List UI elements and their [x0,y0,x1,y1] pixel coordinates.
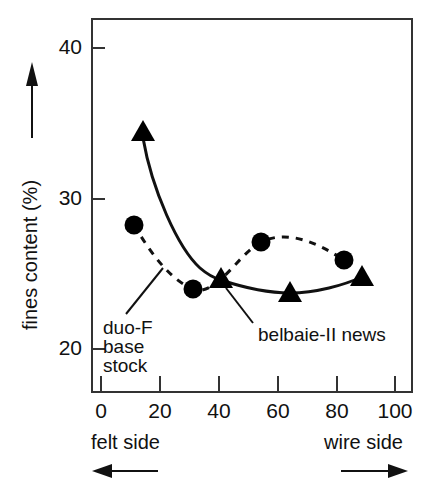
data-point-marker [125,216,144,235]
data-point-marker [131,120,155,141]
annotation-duo-f-line-2: base [103,337,144,356]
x-tick-label-100: 100 [371,400,419,421]
annotation-duo-f-line-3: stock [103,356,147,375]
y-tick-label-30: 30 [38,187,82,208]
y-tick-label-20: 20 [38,337,82,358]
data-point-marker [335,251,354,270]
x-tick-label-60: 60 [256,400,300,421]
wire-side-label: wire side [324,432,403,452]
y-axis-arrow-icon [26,62,38,138]
chart-figure: fines content (%) 40 30 20 0 20 40 60 80… [0,0,440,496]
x-tick-label-20: 20 [138,400,182,421]
y-tick-label-40: 40 [38,36,82,57]
data-point-marker [252,233,271,252]
data-point-marker [350,265,374,286]
annotation-leader-duo-f [126,268,163,314]
series-markers-belbaie-ii-news [131,120,374,302]
x-tick-label-40: 40 [197,400,241,421]
x-tick-label-0: 0 [79,400,123,421]
x-axis-ticks [101,376,395,392]
felt-side-label: felt side [91,432,160,452]
x-tick-label-80: 80 [315,400,359,421]
series-line-belbaie-ii-news [143,138,362,293]
annotation-duo-f-line-1: duo-F [103,318,153,337]
data-point-marker [184,280,203,299]
y-axis-ticks [92,48,105,349]
series-line-duo-f-base-stock [134,225,344,290]
wire-side-arrow-icon [341,464,408,478]
annotation-belbaie-ii-news: belbaie-II news [258,325,386,344]
annotation-leader-belbaie [226,288,253,323]
felt-side-arrow-icon [92,464,158,478]
